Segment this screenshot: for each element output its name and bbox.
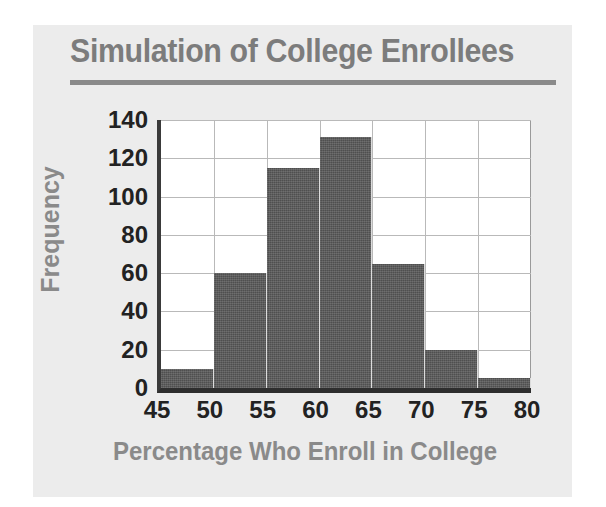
y-tick-label: 100 — [78, 185, 148, 209]
x-tick-label: 45 — [127, 398, 187, 422]
x-axis-tick-labels: 4550556065707580 — [157, 398, 527, 428]
y-tick-label: 80 — [78, 223, 148, 247]
plot-right-border — [530, 120, 531, 388]
bar-50-55 — [214, 273, 267, 388]
gridline-horizontal — [161, 120, 531, 121]
page-title: Simulation of College Enrollees — [70, 28, 502, 74]
bar-60-65 — [320, 137, 373, 388]
figure-container: Simulation of College Enrollees Frequenc… — [0, 0, 606, 507]
y-tick-label: 0 — [78, 376, 148, 400]
x-tick-label: 50 — [180, 398, 240, 422]
y-tick-label: 140 — [78, 108, 148, 132]
bar-70-75 — [425, 350, 478, 388]
title-divider — [70, 80, 556, 85]
x-tick-label: 75 — [444, 398, 504, 422]
y-axis-tick-labels: 020406080100120140 — [78, 120, 148, 388]
x-tick-label: 80 — [497, 398, 557, 422]
x-tick-label: 70 — [391, 398, 451, 422]
plot-area — [157, 120, 531, 393]
bar-45-50 — [161, 369, 214, 388]
x-axis-title: Percentage Who Enroll in College — [70, 437, 540, 466]
gridline-vertical — [425, 120, 426, 388]
y-tick-label: 20 — [78, 338, 148, 362]
x-tick-label: 60 — [286, 398, 346, 422]
bar-55-60 — [267, 168, 320, 388]
plot-inner — [161, 120, 531, 388]
y-tick-label: 40 — [78, 299, 148, 323]
bar-65-70 — [372, 264, 425, 388]
gridline-vertical — [478, 120, 479, 388]
x-tick-label: 65 — [338, 398, 398, 422]
bar-75-80 — [478, 378, 531, 388]
x-tick-label: 55 — [233, 398, 293, 422]
y-tick-label: 60 — [78, 261, 148, 285]
y-axis-title: Frequency — [36, 140, 65, 320]
y-tick-label: 120 — [78, 146, 148, 170]
